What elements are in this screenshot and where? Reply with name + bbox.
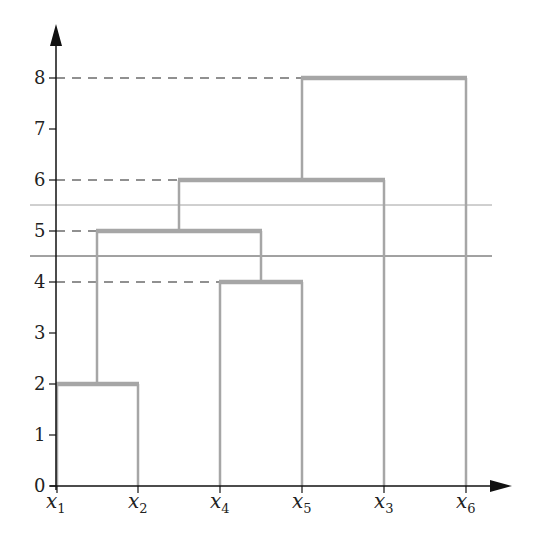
arrow-right-icon [490,480,512,492]
svg-text:x2: x2 [128,489,148,516]
svg-text:7: 7 [34,118,45,139]
svg-text:x6: x6 [456,489,476,516]
arrow-up-icon [50,24,62,46]
leaf-x3: x [374,489,385,513]
leaf-x5: x [292,489,303,513]
leaf-labels: x1 x2 x4 x5 x3 x6 [46,489,476,516]
y-ticks [49,78,56,486]
y-tick-labels: 0 1 2 3 4 5 6 7 8 [34,67,45,496]
leaf-x4: x [210,489,221,513]
svg-text:x4: x4 [210,489,230,516]
svg-text:5: 5 [34,220,45,241]
x-ticks [57,486,466,493]
x-axis [50,480,512,492]
y-axis [50,24,62,490]
svg-text:0: 0 [34,475,45,496]
dendrogram-branches [56,78,467,486]
svg-text:3: 3 [34,322,45,343]
leaf-x6: x [456,489,467,513]
svg-text:x1: x1 [46,489,66,516]
svg-text:1: 1 [34,424,45,445]
svg-text:x5: x5 [292,489,312,516]
svg-text:2: 2 [34,373,45,394]
svg-text:6: 6 [34,169,45,190]
leaf-x1: x [46,489,57,513]
svg-text:x3: x3 [374,489,394,516]
svg-text:4: 4 [34,271,45,292]
leaf-x2: x [128,489,139,513]
svg-text:8: 8 [34,67,45,88]
dendrogram-diagram: 0 1 2 3 4 5 6 7 8 x1 x2 x4 x5 x3 x6 [0,0,533,535]
